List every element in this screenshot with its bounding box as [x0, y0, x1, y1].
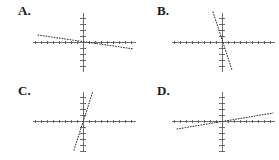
- panel-d-svg: [139, 80, 278, 160]
- panel-d: D.: [139, 80, 278, 160]
- panel-b: B.: [139, 0, 278, 80]
- panel-a-axes: [33, 13, 136, 72]
- panel-c-plot: [0, 80, 139, 160]
- panel-a: A.: [0, 0, 139, 80]
- four-panel-graph-figure: A. B. C. D.: [0, 0, 279, 160]
- panel-c-axes: [33, 92, 136, 152]
- panel-c-svg: [0, 80, 139, 160]
- panel-b-plot: [139, 0, 278, 80]
- panel-a-svg: [0, 0, 139, 80]
- panel-a-plot: [0, 0, 139, 80]
- panel-d-axes: [172, 92, 275, 152]
- panel-c: C.: [0, 80, 139, 160]
- panel-b-svg: [139, 0, 278, 80]
- panel-d-plot: [139, 80, 278, 160]
